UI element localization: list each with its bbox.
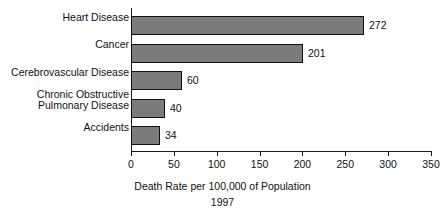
category-label-chronic-obstructive-pulmonary-disease: Chronic Obstructive Pulmonary Disease	[37, 89, 129, 112]
x-axis-title: Death Rate per 100,000 of Population	[0, 180, 445, 192]
x-axis-tick-label-100: 100	[208, 158, 226, 170]
x-axis-tick-100	[217, 151, 218, 156]
x-axis-line	[131, 151, 431, 152]
bar-chronic-obstructive-pulmonary-disease	[131, 99, 165, 118]
bar-chart: Heart Disease Cancer Cerebrovascular Dis…	[0, 0, 445, 215]
bar-value-cerebrovascular-disease: 60	[187, 71, 199, 90]
bar-accidents	[131, 126, 160, 145]
bar-heart-disease	[131, 16, 364, 35]
bar-value-chronic-obstructive-pulmonary-disease: 40	[170, 99, 182, 118]
category-label-cancer: Cancer	[95, 39, 129, 51]
x-axis-tick-label-0: 0	[128, 158, 134, 170]
x-axis-tick-200	[302, 151, 303, 156]
bar-value-heart-disease: 272	[369, 16, 387, 35]
x-axis-tick-label-350: 350	[422, 158, 440, 170]
chart-subtitle-year: 1997	[0, 196, 445, 208]
category-label-accidents: Accidents	[83, 122, 129, 134]
x-axis-tick-50	[174, 151, 175, 156]
x-axis-tick-250	[345, 151, 346, 156]
plot-area: 272 201 60 40 34 0 50 100 150 200 250 30…	[131, 8, 431, 151]
x-axis-tick-0	[131, 151, 132, 156]
x-axis-tick-label-50: 50	[168, 158, 180, 170]
x-axis-tick-300	[388, 151, 389, 156]
bar-cerebrovascular-disease	[131, 71, 182, 90]
bar-value-cancer: 201	[308, 44, 326, 63]
x-axis-tick-label-250: 250	[337, 158, 355, 170]
bar-cancer	[131, 44, 303, 63]
x-axis-tick-350	[431, 151, 432, 156]
x-axis-tick-label-300: 300	[379, 158, 397, 170]
category-label-cerebrovascular-disease: Cerebrovascular Disease	[11, 67, 129, 79]
x-axis-tick-label-200: 200	[294, 158, 312, 170]
x-axis-tick-150	[260, 151, 261, 156]
bar-value-accidents: 34	[165, 126, 177, 145]
category-label-heart-disease: Heart Disease	[62, 12, 129, 24]
x-axis-tick-label-150: 150	[251, 158, 269, 170]
